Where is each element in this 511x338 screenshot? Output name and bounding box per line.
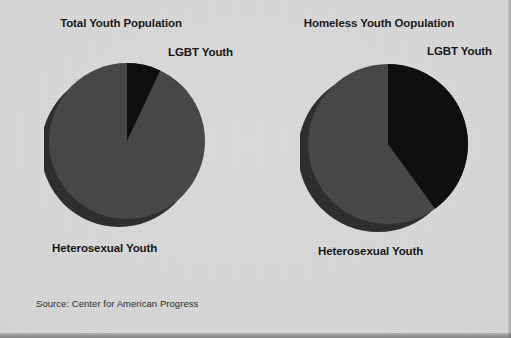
label-lgbt-youth-right: LGBT Youth bbox=[427, 45, 492, 57]
chart-homeless-youth-population: Homeless Youth Oopulation LGBT Youth Het… bbox=[255, 0, 511, 338]
pie-right bbox=[300, 52, 472, 238]
chart-title-left: Total Youth Population bbox=[0, 17, 249, 29]
chart-title-right: Homeless Youth Oopulation bbox=[251, 17, 507, 29]
pie-left-svg bbox=[44, 53, 210, 233]
label-lgbt-youth-left: LGBT Youth bbox=[168, 46, 233, 58]
label-heterosexual-youth-right: Heterosexual Youth bbox=[318, 245, 423, 257]
pie-chart-figure: Total Youth Population LGBT Youth He bbox=[0, 0, 511, 338]
label-heterosexual-youth-left: Heterosexual Youth bbox=[52, 242, 157, 254]
pie-right-svg bbox=[300, 52, 472, 238]
chart-total-youth-population: Total Youth Population LGBT Youth He bbox=[0, 0, 256, 338]
pie-left bbox=[44, 53, 210, 233]
source-note: Source: Center for American Progress bbox=[36, 298, 198, 309]
